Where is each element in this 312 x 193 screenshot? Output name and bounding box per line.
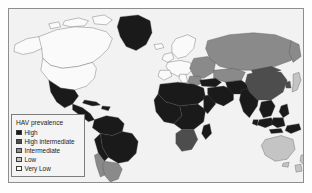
hav-prevalence-figure: HAV prevalence High High intermediate In… [0,0,312,193]
legend-item-high-intermediate: High intermediate [16,137,80,146]
region-indonesia-java [269,129,283,134]
legend-item-low: Low [16,155,80,164]
region-korea [285,81,291,88]
legend-label-very-low: Very Low [25,164,51,173]
legend-swatch-very-low [16,166,22,172]
region-new-zealand-south [295,164,302,172]
legend-title: HAV prevalence [16,118,80,127]
legend-swatch-high-intermediate [16,139,22,145]
legend-label-intermediate: Intermediate [25,146,61,155]
legend-item-high: High [16,128,80,137]
map-legend: HAV prevalence High High intermediate In… [11,114,85,177]
legend-swatch-low [16,157,22,163]
legend-swatch-high [16,130,22,136]
legend-label-high-intermediate: High intermediate [25,137,75,146]
legend-label-low: Low [25,155,37,164]
legend-item-intermediate: Intermediate [16,146,80,155]
legend-swatch-intermediate [16,148,22,154]
legend-label-high: High [25,128,38,137]
legend-item-very-low: Very Low [16,164,80,173]
